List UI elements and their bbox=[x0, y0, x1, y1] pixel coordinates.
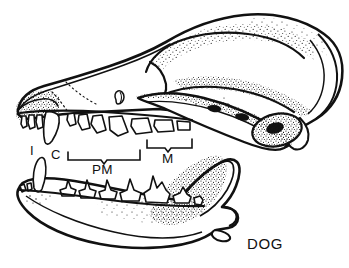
label-premolar: PM bbox=[92, 163, 113, 177]
skull-illustration bbox=[0, 0, 349, 268]
upper-premolar-3 bbox=[91, 115, 106, 133]
upper-molar-1 bbox=[131, 118, 152, 134]
infraorbital-foramen bbox=[115, 91, 124, 104]
upper-incisor-3 bbox=[36, 115, 43, 129]
upper-premolar-2 bbox=[78, 114, 90, 130]
dental-brackets bbox=[68, 139, 192, 164]
dog-skull-figure: I C PM M DOG bbox=[0, 0, 349, 268]
figure-caption: DOG bbox=[247, 236, 283, 251]
label-molar: M bbox=[162, 152, 173, 166]
lower-molar-1-carnassial bbox=[144, 176, 170, 203]
upper-molar-3 bbox=[177, 121, 190, 130]
upper-premolar-4-carnassial bbox=[109, 116, 128, 136]
upper-molar-2 bbox=[154, 120, 174, 132]
label-incisor: I bbox=[30, 144, 34, 157]
upper-canine bbox=[44, 112, 60, 144]
upper-premolar-1 bbox=[67, 113, 76, 126]
angular-process bbox=[212, 230, 230, 241]
upper-incisor-2 bbox=[28, 115, 35, 129]
upper-incisor-1 bbox=[21, 116, 27, 128]
cranium-group bbox=[14, 14, 342, 152]
lower-molar-3 bbox=[194, 196, 203, 205]
label-canine: C bbox=[51, 148, 60, 161]
